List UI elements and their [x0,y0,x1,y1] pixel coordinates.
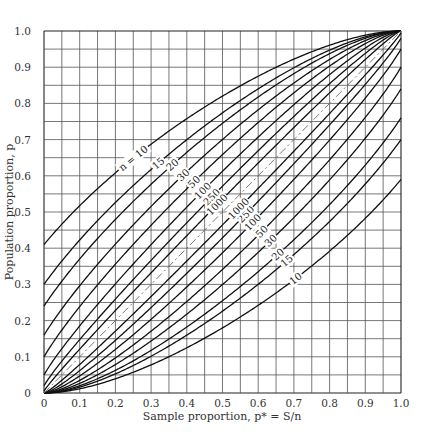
x-tick-label: 0.5 [214,397,231,409]
x-tick-label: 1.0 [393,397,410,409]
y-tick-label: 0.1 [14,351,31,363]
x-axis-label: Sample proportion, p* = S/n [143,410,302,423]
y-axis-label: Population proportion, p [3,144,16,280]
x-tick-label: 0.9 [357,397,374,409]
y-tick-label: 0.2 [14,315,31,327]
x-tick-label: 0.7 [286,397,303,409]
x-tick-label: 0 [41,397,48,409]
curve-label: 10 [286,269,305,288]
y-tick-label: 0.4 [14,242,31,254]
x-tick-label: 0.8 [321,397,338,409]
y-tick-label: 0.6 [14,170,31,182]
x-axis-ticks: 00.10.20.30.40.50.60.70.80.91.0 [41,397,410,409]
y-axis-ticks: 00.10.20.30.40.50.60.70.80.91.0 [14,25,31,399]
y-tick-label: 0.5 [14,206,31,218]
y-tick-label: 0.9 [14,61,31,73]
x-tick-label: 0.2 [107,397,124,409]
x-tick-label: 0.6 [250,397,267,409]
y-tick-label: 0.3 [14,278,31,290]
confidence-chart: n = 101015152020303050501001002502501000… [0,0,428,445]
y-tick-label: 0.8 [14,97,31,109]
x-tick-label: 0.3 [143,397,160,409]
y-tick-label: 0.7 [14,134,31,146]
x-tick-label: 0.4 [178,397,195,409]
y-tick-label: 0 [24,387,31,399]
y-tick-label: 1.0 [14,25,31,37]
x-tick-label: 0.1 [71,397,88,409]
